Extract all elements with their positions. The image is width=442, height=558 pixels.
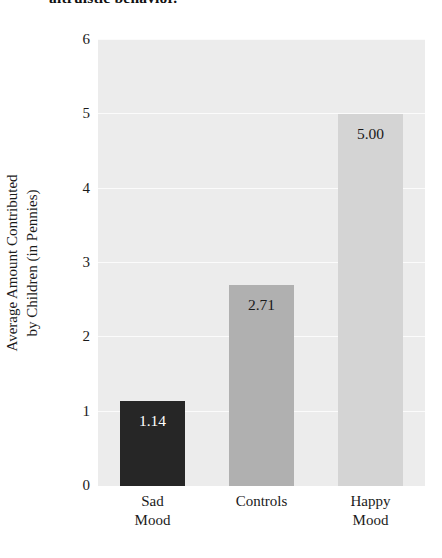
x-axis-category-line: Happy xyxy=(316,492,425,511)
gridline xyxy=(98,39,425,40)
y-axis-tick-label: 1 xyxy=(64,404,90,419)
x-axis-category-label: Controls xyxy=(207,492,316,511)
x-axis-category-labels: SadMoodControlsHappyMood xyxy=(98,492,425,552)
x-axis-category-label: SadMood xyxy=(98,492,207,530)
x-axis-category-line: Sad xyxy=(98,492,207,511)
y-axis-title: Average Amount Contributed by Children (… xyxy=(0,40,44,486)
x-axis-category-line: Mood xyxy=(316,511,425,530)
y-axis-tick-labels: 0123456 xyxy=(62,40,90,486)
x-axis-category-label: HappyMood xyxy=(316,492,425,530)
y-axis-tick-label: 0 xyxy=(64,478,90,493)
bar: 2.71 xyxy=(229,285,294,486)
y-axis-tick-label: 6 xyxy=(64,32,90,47)
y-axis-tick-label: 5 xyxy=(64,106,90,121)
y-axis-title-line-1: Average Amount Contributed xyxy=(3,174,21,351)
y-axis-title-line-2: by Children (in Pennies) xyxy=(23,189,41,336)
y-axis-tick-label: 2 xyxy=(64,329,90,344)
y-axis-tick-label: 3 xyxy=(64,255,90,270)
x-axis-category-line: Mood xyxy=(98,511,207,530)
bar: 1.14 xyxy=(120,401,185,486)
bar-chart: Average Amount Contributed by Children (… xyxy=(0,0,442,558)
plot-area: 1.142.715.00 xyxy=(98,40,425,486)
bar-value-label: 5.00 xyxy=(338,126,403,142)
bar-value-label: 1.14 xyxy=(120,413,185,429)
y-axis-tick-label: 4 xyxy=(64,181,90,196)
x-axis-category-line: Controls xyxy=(207,492,316,511)
bar-value-label: 2.71 xyxy=(229,297,294,313)
bar: 5.00 xyxy=(338,114,403,486)
